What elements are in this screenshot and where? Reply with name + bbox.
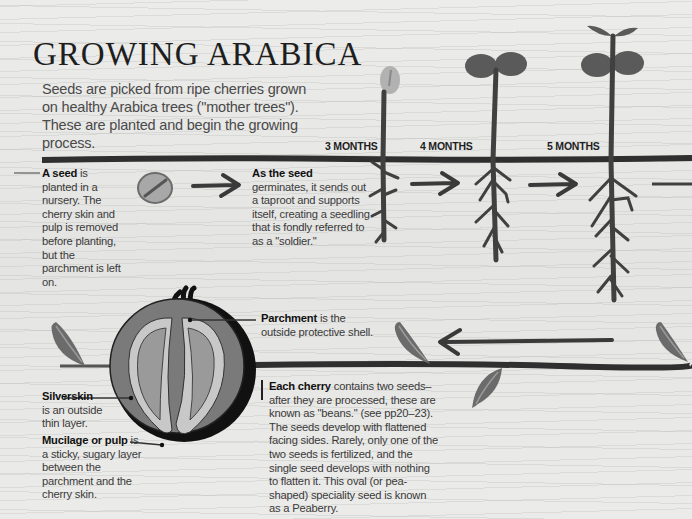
arrow-left-icon — [440, 330, 612, 354]
seedling-5-months-icon — [581, 26, 692, 300]
parchment-description: Parchment is the outside protective shel… — [261, 312, 381, 339]
germination-description-bold: As the seed — [252, 167, 313, 179]
month-label-3: 3 MONTHS — [325, 140, 378, 152]
each-cherry-description-bold: Each cherry — [269, 380, 331, 392]
mucilage-description-bold: Mucilage or pulp — [42, 434, 128, 446]
page-title: GROWING ARABICA — [33, 36, 362, 73]
arrow-right-icon — [412, 173, 458, 194]
ground-line-top — [42, 158, 692, 160]
germination-description-text: germinates, it sends out a taproot and s… — [252, 181, 370, 247]
seedling-4-months-icon — [465, 52, 527, 260]
seed-description: A seed is planted in a nursery. The cher… — [42, 167, 124, 289]
leaf-icon — [656, 322, 688, 362]
seed-description-bold: A seed — [42, 167, 77, 179]
seed-icon — [138, 173, 172, 203]
silverskin-description-bold: Silverskin — [42, 390, 112, 404]
month-label-5: 5 MONTHS — [547, 140, 600, 152]
each-cherry-description: Each cherry contains two seeds– after th… — [269, 380, 439, 516]
mucilage-description: Mucilage or pulp is a sticky, sugary lay… — [42, 434, 147, 502]
leaf-icon — [52, 322, 86, 366]
parchment-description-bold: Parchment — [261, 312, 317, 324]
cherry-cross-section-icon — [110, 288, 256, 442]
arrow-right-icon — [193, 175, 239, 196]
arrow-right-icon — [530, 174, 576, 195]
silverskin-description: Silverskinis an outside thin layer. — [42, 390, 112, 431]
intro-text: Seeds are picked from ripe cherries grow… — [42, 80, 314, 152]
seed-description-text: is planted in a nursery. The cherry skin… — [42, 167, 121, 288]
silverskin-description-text: is an outside thin layer. — [42, 404, 102, 430]
each-cherry-description-text: contains two seeds– after they are proce… — [269, 380, 438, 514]
germination-description: As the seed germinates, it sends out a t… — [252, 167, 370, 249]
leaf-icon — [472, 368, 502, 408]
month-label-4: 4 MONTHS — [420, 140, 473, 152]
leaf-icon — [395, 322, 430, 364]
seedling-3-months-icon — [370, 66, 400, 242]
